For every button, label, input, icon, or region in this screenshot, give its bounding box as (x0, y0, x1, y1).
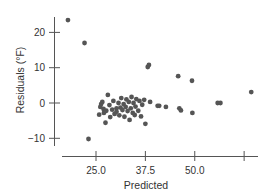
data-point (66, 18, 71, 23)
data-point (82, 41, 87, 46)
data-point (142, 97, 147, 102)
data-point (249, 90, 254, 95)
data-point (97, 112, 102, 117)
data-point (139, 114, 144, 119)
data-point (117, 113, 122, 118)
y-tick-label: 0 (39, 98, 45, 109)
data-point (133, 104, 138, 109)
data-point (103, 120, 108, 125)
data-point (129, 95, 134, 100)
data-point (105, 92, 110, 97)
data-point (107, 103, 112, 108)
x-axis-label: Predicted (124, 179, 169, 191)
data-point (179, 108, 184, 113)
data-point (116, 101, 121, 106)
data-point (128, 106, 133, 111)
data-point (102, 110, 107, 115)
data-point (190, 110, 195, 115)
data-point (164, 104, 169, 109)
data-point (218, 101, 223, 106)
data-point (127, 118, 132, 123)
data-point (190, 78, 195, 83)
x-tick-label: 37.5 (136, 165, 156, 176)
data-point (132, 113, 137, 118)
data-point (123, 104, 128, 109)
data-point (136, 108, 141, 113)
data-point (147, 62, 152, 67)
data-point (122, 114, 127, 119)
x-axis-ticks: 25.037.550.0 (86, 151, 244, 176)
data-point (108, 115, 113, 120)
data-point (176, 74, 181, 79)
residuals-scatterplot: −1001020 25.037.550.0 Predicted Residual… (0, 0, 272, 196)
data-point (126, 100, 131, 105)
x-tick-label: 50.0 (185, 165, 205, 176)
y-tick-label: 10 (34, 62, 46, 73)
data-point (86, 137, 91, 142)
data-point (99, 102, 104, 107)
data-point (140, 102, 145, 107)
y-axis-label: Residuals (°F) (14, 47, 26, 114)
y-tick-label: −10 (28, 133, 45, 144)
data-point (157, 103, 162, 108)
data-point (111, 98, 116, 103)
data-points (66, 18, 254, 142)
data-point (110, 107, 115, 112)
data-point (143, 121, 148, 126)
data-point (137, 98, 142, 103)
data-point (148, 100, 153, 105)
y-axis-ticks: −1001020 (28, 27, 60, 144)
data-point (119, 96, 124, 101)
x-tick-label: 25.0 (86, 165, 106, 176)
y-tick-label: 20 (34, 27, 46, 38)
